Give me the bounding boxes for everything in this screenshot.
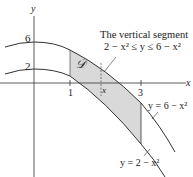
- annotation-inequality: 2 − x² ≤ y ≤ 6 − x²: [104, 42, 181, 53]
- curve-upper-label: y = 6 − x²: [148, 101, 187, 111]
- curve-upper: [5, 42, 175, 152]
- x-tick-3: 3: [138, 88, 143, 98]
- y-tick-6: 6: [25, 33, 31, 44]
- x-axis-label: x: [186, 78, 190, 88]
- region-d-label: 𝒟: [76, 58, 86, 70]
- diagram-canvas: [0, 0, 193, 177]
- curve-lower-label: y = 2 − x²: [120, 158, 159, 168]
- segment-x-label: x: [102, 86, 106, 95]
- annotation-leader: [104, 57, 116, 72]
- y-tick-2: 2: [25, 61, 31, 72]
- y-axis-label: y: [31, 4, 35, 14]
- x-tick-1: 1: [68, 88, 73, 98]
- upper-label-leader: [152, 112, 158, 119]
- annotation-title: The vertical segment: [100, 30, 188, 41]
- lower-label-leader: [144, 149, 150, 156]
